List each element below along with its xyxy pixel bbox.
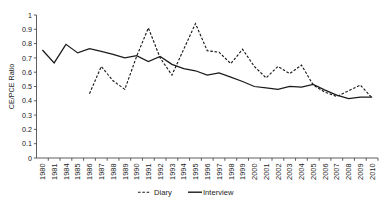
x-axis-tick-label: 1990 — [132, 164, 141, 180]
x-axis-tick-label: 2010 — [368, 164, 377, 180]
x-axis-tick-label: 1985 — [73, 164, 82, 180]
x-axis-tick-label: 2003 — [285, 164, 294, 180]
x-axis-tick-label: 2009 — [356, 164, 365, 180]
y-axis-tick-label: 0.3 — [22, 111, 32, 120]
y-axis-tick-label: 0.7 — [22, 54, 32, 63]
x-axis-tick-label: 1997 — [215, 164, 224, 180]
x-axis-tick-label: 1991 — [144, 164, 153, 180]
x-axis-tick-label: 1994 — [179, 164, 188, 180]
legend-label-diary: Diary — [154, 188, 172, 197]
x-axis-tick-label: 1998 — [227, 164, 236, 180]
chart-legend: DiaryInterview — [138, 188, 234, 197]
x-axis-tick-label: 1999 — [238, 164, 247, 180]
series-line-diary — [89, 24, 372, 98]
x-axis-tick-label: 1992 — [156, 164, 165, 180]
ce-pce-ratio-line-chart: 00.10.20.30.40.50.60.70.80.91 1980198119… — [0, 0, 385, 206]
x-axis-tick-label: 2006 — [321, 164, 330, 180]
x-axis-tick-label: 2004 — [297, 164, 306, 180]
y-axis-tick-label: 0.5 — [22, 82, 32, 91]
x-axis-tick-label: 1989 — [121, 164, 130, 180]
legend-label-interview: Interview — [203, 188, 234, 197]
y-axis-tick-label: 0.9 — [22, 25, 32, 34]
x-axis-tick-label: 1993 — [168, 164, 177, 180]
y-axis-tick-label: 1 — [28, 11, 32, 20]
x-axis-tick-label: 1986 — [85, 164, 94, 180]
x-axis-tick-label: 2001 — [262, 164, 271, 180]
x-axis-tick-label: 1980 — [38, 164, 47, 180]
x-axis-tick-label: 2008 — [344, 164, 353, 180]
y-axis-title-text: CE/PCE Ratio — [7, 64, 16, 110]
y-axis-tick-label: 0.8 — [22, 39, 32, 48]
x-axis: 1980198119841985198619871988198919901991… — [37, 158, 379, 180]
x-axis-tick-label: 2002 — [274, 164, 283, 180]
x-axis-tick-label: 2005 — [309, 164, 318, 180]
x-axis-tick-label: 2007 — [332, 164, 341, 180]
x-axis-tick-label: 1996 — [203, 164, 212, 180]
data-series-group — [42, 24, 372, 99]
x-axis-tick-label: 1984 — [62, 164, 71, 180]
y-axis: 00.10.20.30.40.50.60.70.80.91 — [22, 11, 37, 163]
y-axis-tick-label: 0.6 — [22, 68, 32, 77]
x-axis-tick-label: 1981 — [50, 164, 59, 180]
y-axis-title: CE/PCE Ratio — [7, 64, 16, 110]
x-axis-tick-label: 1987 — [97, 164, 106, 180]
y-axis-tick-label: 0.2 — [22, 125, 32, 134]
x-axis-tick-label: 2000 — [250, 164, 259, 180]
y-axis-tick-label: 0 — [28, 154, 32, 163]
y-axis-tick-label: 0.4 — [22, 96, 32, 105]
y-axis-tick-label: 0.1 — [22, 139, 32, 148]
x-axis-tick-label: 1988 — [109, 164, 118, 180]
chart-container: 00.10.20.30.40.50.60.70.80.91 1980198119… — [0, 0, 385, 206]
x-axis-tick-label: 1995 — [191, 164, 200, 180]
